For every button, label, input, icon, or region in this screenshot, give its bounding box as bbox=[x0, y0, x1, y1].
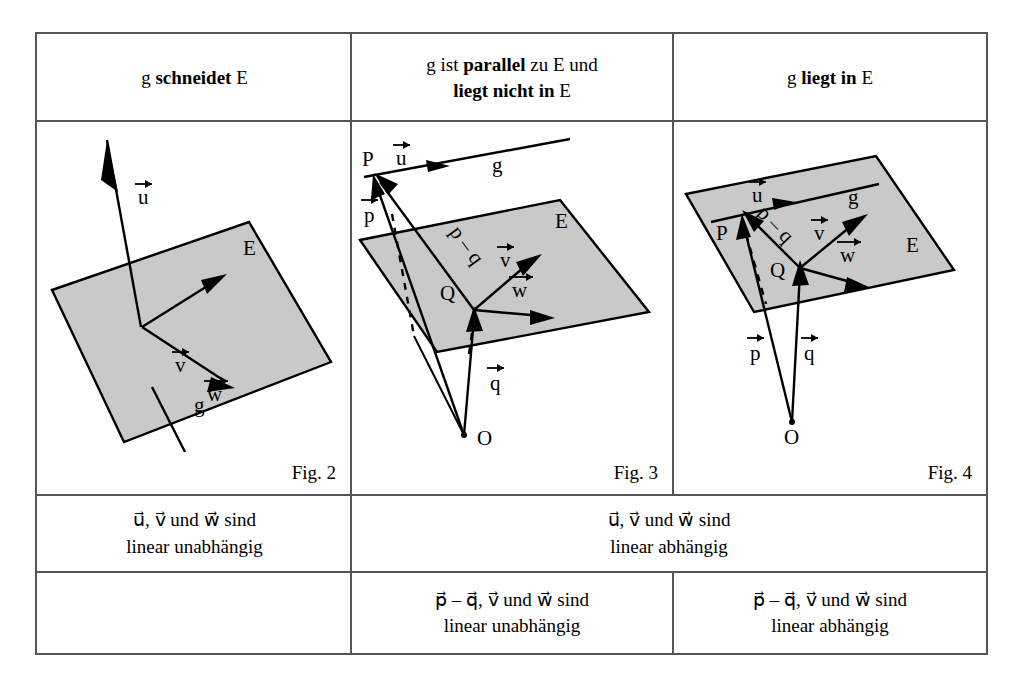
row4-cell-1 bbox=[39, 573, 350, 653]
row4-cell-3-line2: linear abhängig bbox=[753, 613, 907, 639]
fig3-label-E: E bbox=[555, 209, 568, 233]
header-2-line1: g ist parallel zu E und bbox=[426, 52, 598, 78]
fig2-label-g: g bbox=[194, 393, 205, 417]
fig4-label-q: q bbox=[801, 334, 818, 365]
fig3-label-P: P bbox=[362, 147, 374, 171]
header-2-l1-bold: parallel bbox=[463, 54, 525, 75]
header-2-l1-after: zu E und bbox=[525, 54, 597, 75]
header-3-plain-after: E bbox=[857, 67, 873, 88]
header-cell-2: g ist parallel zu E und liegt nicht in E bbox=[352, 36, 672, 120]
fig3-label-O: O bbox=[477, 426, 492, 450]
row3-cell-1-line2: linear unabhängig bbox=[126, 534, 263, 560]
row4-cell-3: p⃗ – q⃗, v⃗ und w⃗ sind linear abhängig bbox=[674, 573, 986, 653]
fig4-label-E: E bbox=[906, 233, 919, 257]
fig2-label-u: u bbox=[135, 180, 152, 209]
svg-text:w: w bbox=[840, 243, 856, 267]
fig3-plane-E bbox=[360, 200, 649, 352]
row4-cell-2-line1: p⃗ – q⃗, v⃗ und w⃗ sind bbox=[435, 587, 589, 613]
header-cell-3: g liegt in E bbox=[674, 36, 986, 120]
fig2-svg: u v w E g bbox=[39, 122, 350, 494]
fig4-caption: Fig. 4 bbox=[928, 462, 972, 484]
figure-cell-fig3: P u g p p – q Q v bbox=[352, 122, 672, 494]
fig4-label-g: g bbox=[848, 185, 859, 209]
svg-text:v: v bbox=[175, 353, 186, 377]
fig2-plane-E bbox=[52, 222, 331, 442]
row4-cell-3-line1: p⃗ – q⃗, v⃗ und w⃗ sind bbox=[753, 587, 907, 613]
svg-text:w: w bbox=[207, 382, 223, 406]
fig3-label-p: p bbox=[361, 196, 378, 227]
row3-cell-1: u⃗, v⃗ und w⃗ sind linear unabhängig bbox=[39, 496, 350, 571]
figure-cell-fig2: u v w E g Fig. 2 bbox=[39, 122, 350, 494]
row3-cell-merged-line2: linear abhängig bbox=[608, 534, 731, 560]
row3-cell-1-line1: u⃗, v⃗ und w⃗ sind bbox=[126, 507, 263, 533]
svg-text:q: q bbox=[804, 341, 815, 365]
fig3-label-q: q bbox=[487, 364, 504, 395]
fig4-label-O: O bbox=[784, 425, 799, 449]
header-1-bold: schneidet bbox=[155, 67, 231, 88]
svg-text:w: w bbox=[512, 278, 528, 302]
row4-cell-2-line2: linear unabhängig bbox=[435, 613, 589, 639]
header-2-line2: liegt nicht in E bbox=[426, 78, 598, 104]
svg-text:u: u bbox=[138, 185, 149, 209]
header-cell-1: g schneidet E bbox=[39, 36, 350, 120]
fig3-svg: P u g p p – q Q v bbox=[352, 122, 672, 494]
row3-cell-merged: u⃗, v⃗ und w⃗ sind linear abhängig bbox=[352, 496, 986, 571]
header-3-bold: liegt in bbox=[801, 67, 856, 88]
fig3-label-u: u bbox=[393, 141, 410, 170]
header-3-plain-before: g bbox=[787, 67, 801, 88]
header-2-l2-bold: liegt nicht in bbox=[453, 80, 554, 101]
svg-text:u: u bbox=[396, 146, 407, 170]
fig4-label-P: P bbox=[716, 221, 728, 245]
svg-text:p: p bbox=[750, 341, 761, 365]
fig3-label-g: g bbox=[492, 153, 503, 177]
fig3-point-O bbox=[461, 432, 467, 438]
svg-text:u: u bbox=[752, 183, 763, 207]
header-2-l2-after: E bbox=[554, 80, 570, 101]
fig4-label-p: p bbox=[747, 334, 764, 365]
table-frame: g schneidet E g ist parallel zu E und li… bbox=[35, 32, 988, 655]
fig4-label-Q: Q bbox=[770, 258, 785, 282]
row3-cell-merged-line1: u⃗, v⃗ und w⃗ sind bbox=[608, 507, 731, 533]
svg-text:q: q bbox=[490, 371, 501, 395]
svg-text:p: p bbox=[364, 203, 375, 227]
header-1-plain-after: E bbox=[231, 67, 247, 88]
row4-cell-2: p⃗ – q⃗, v⃗ und w⃗ sind linear unabhängi… bbox=[352, 573, 672, 653]
fig3-caption: Fig. 3 bbox=[614, 462, 658, 484]
header-2-l1-before: g ist bbox=[426, 54, 463, 75]
fig4-svg: u g P p – q v w Q bbox=[674, 122, 986, 494]
figure-cell-fig4: u g P p – q v w Q bbox=[674, 122, 986, 494]
header-1-plain-before: g bbox=[141, 67, 155, 88]
fig3-label-Q: Q bbox=[440, 281, 455, 305]
svg-text:v: v bbox=[814, 221, 825, 245]
fig2-label-E: E bbox=[243, 236, 256, 260]
fig2-caption: Fig. 2 bbox=[292, 462, 336, 484]
svg-text:v: v bbox=[500, 248, 511, 272]
figure-page: g schneidet E g ist parallel zu E und li… bbox=[0, 0, 1028, 687]
